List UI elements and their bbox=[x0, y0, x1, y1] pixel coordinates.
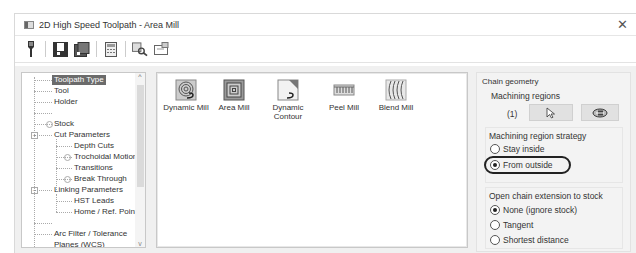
annotation-highlight-ellipse bbox=[484, 156, 571, 174]
dialog-window: 2D High Speed Toolpath - Area Mill ✕ bbox=[14, 13, 636, 253]
toolpath-type-label: Area Mill bbox=[218, 103, 249, 112]
radio-button[interactable] bbox=[490, 235, 500, 245]
radio-none-ignore-stock[interactable]: None (ignore stock) bbox=[490, 205, 577, 215]
tree-connector bbox=[34, 80, 52, 81]
select-regions-button[interactable] bbox=[529, 104, 573, 121]
chain-geometry-panel: Chain geometry Machining regions (1) Mac… bbox=[476, 72, 631, 252]
tree-connector bbox=[34, 91, 52, 92]
tree-connector bbox=[34, 234, 52, 235]
radio-button[interactable] bbox=[490, 205, 500, 215]
toolpath-type-dynamic-contour[interactable]: Dynamic Contour bbox=[263, 79, 313, 121]
area-mill-icon bbox=[223, 79, 245, 101]
radio-label: None (ignore stock) bbox=[503, 205, 577, 215]
tree-item-arc-filter-tolerance[interactable]: Arc Filter / Tolerance bbox=[54, 229, 127, 239]
tree-connector bbox=[56, 168, 72, 169]
open-chain-title: Open chain extension to stock bbox=[489, 191, 603, 201]
app-icon bbox=[24, 21, 34, 29]
status-icon bbox=[64, 176, 71, 183]
save-icon[interactable] bbox=[52, 41, 68, 57]
tree-item-toolpath-type[interactable]: Toolpath Type bbox=[52, 75, 106, 85]
tree-connector bbox=[34, 113, 52, 114]
tree-item-holder[interactable]: Holder bbox=[54, 97, 78, 107]
tool-icon[interactable] bbox=[23, 41, 39, 57]
tree-connector bbox=[56, 201, 72, 202]
toolbar-separator bbox=[125, 41, 126, 57]
status-icon bbox=[46, 121, 53, 128]
tree-item-cut-parameters[interactable]: Cut Parameters bbox=[54, 130, 110, 140]
tree-connector bbox=[56, 194, 57, 212]
strategy-title: Machining region strategy bbox=[489, 131, 586, 141]
toolbar-separator bbox=[45, 41, 46, 57]
tree-connector bbox=[34, 223, 52, 224]
radio-label: Shortest distance bbox=[503, 235, 569, 245]
toolpath-type-peel-mill[interactable]: Peel Mill bbox=[319, 79, 369, 112]
radio-button[interactable] bbox=[490, 220, 500, 230]
toolpath-type-blend-mill[interactable]: Blend Mill bbox=[371, 79, 421, 112]
toolpath-type-label: Dynamic Mill bbox=[163, 103, 208, 112]
peel-mill-icon bbox=[333, 79, 355, 101]
export-icon[interactable] bbox=[154, 41, 170, 57]
title-bar: 2D High Speed Toolpath - Area Mill ✕ bbox=[15, 14, 636, 36]
toolpath-type-area-mill[interactable]: Area Mill bbox=[209, 79, 259, 112]
collapse-icon[interactable]: − bbox=[31, 132, 38, 139]
cursor-arrow-icon bbox=[546, 107, 556, 119]
tree-item-break-through[interactable]: Break Through bbox=[74, 174, 127, 184]
window-title: 2D High Speed Toolpath - Area Mill bbox=[39, 20, 179, 30]
tree-item-depth-cuts[interactable]: Depth Cuts bbox=[74, 141, 114, 151]
reselect-regions-button[interactable] bbox=[581, 104, 619, 121]
scroll-down-icon[interactable]: v bbox=[135, 240, 145, 247]
toolpath-type-list: Dynamic Mill Area Mill Dynamic Contour bbox=[156, 72, 468, 248]
calculator-icon[interactable] bbox=[103, 41, 119, 57]
scroll-up-icon[interactable]: ^ bbox=[135, 73, 145, 83]
machining-regions-label: Machining regions bbox=[491, 91, 560, 101]
toolbar bbox=[15, 36, 636, 63]
toolpath-type-label: Blend Mill bbox=[379, 103, 414, 112]
tree-item-trochoidal-motion[interactable]: Trochoidal Motion bbox=[74, 152, 137, 162]
radio-label: Stay inside bbox=[503, 144, 545, 154]
close-icon[interactable]: ✕ bbox=[614, 17, 630, 32]
radio-label: Tangent bbox=[503, 220, 533, 230]
dynamic-contour-icon bbox=[277, 79, 299, 101]
tree-scrollbar[interactable]: ^ v bbox=[135, 73, 145, 247]
tree-item-transitions[interactable]: Transitions bbox=[74, 163, 113, 173]
tree-item-tool[interactable]: Tool bbox=[54, 86, 69, 96]
machining-regions-count: (1) bbox=[507, 109, 517, 119]
tree-connector bbox=[56, 146, 72, 147]
dynamic-mill-icon bbox=[175, 79, 197, 101]
tree-item-linking-parameters[interactable]: Linking Parameters bbox=[54, 185, 123, 195]
tree-item-planes-wcs[interactable]: Planes (WCS) bbox=[54, 240, 105, 248]
tree-item-stock[interactable]: Stock bbox=[54, 119, 74, 129]
preview-icon[interactable] bbox=[132, 41, 148, 57]
chain-geometry-title: Chain geometry bbox=[482, 77, 538, 86]
blend-mill-icon bbox=[385, 79, 407, 101]
tree-connector bbox=[56, 212, 72, 213]
scroll-thumb[interactable] bbox=[137, 85, 144, 187]
collapse-icon[interactable]: − bbox=[31, 187, 38, 194]
radio-shortest-distance[interactable]: Shortest distance bbox=[490, 235, 569, 245]
status-icon bbox=[64, 154, 71, 161]
tree-connector bbox=[34, 102, 52, 103]
toolpath-type-label: Dynamic Contour bbox=[272, 103, 303, 121]
save-as-icon[interactable] bbox=[74, 41, 90, 57]
toolpath-type-label: Peel Mill bbox=[329, 103, 359, 112]
chain-selection-icon bbox=[592, 108, 608, 118]
toolpath-type-dynamic-mill[interactable]: Dynamic Mill bbox=[161, 79, 211, 112]
radio-tangent[interactable]: Tangent bbox=[490, 220, 533, 230]
parameter-tree: − − Toolpath Type Tool Holder Stock Cut … bbox=[21, 72, 146, 248]
toolbar-separator bbox=[96, 41, 97, 57]
radio-button[interactable] bbox=[490, 144, 500, 154]
radio-stay-inside[interactable]: Stay inside bbox=[490, 144, 545, 154]
tree-item-hst-leads[interactable]: HST Leads bbox=[74, 196, 114, 206]
tree-item-home-ref-points[interactable]: Home / Ref. Points bbox=[74, 207, 141, 217]
dialog-content: − − Toolpath Type Tool Holder Stock Cut … bbox=[15, 66, 636, 253]
